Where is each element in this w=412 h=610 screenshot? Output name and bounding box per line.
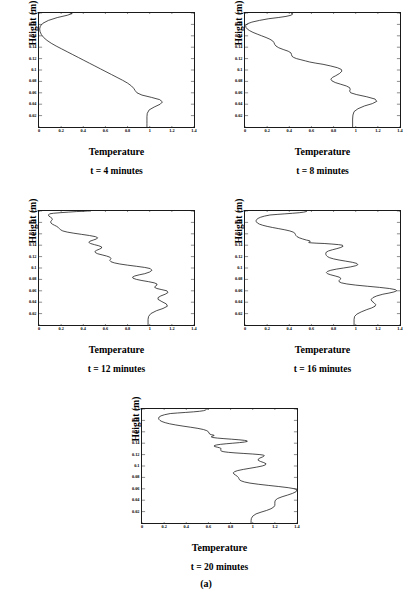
x-tick-label: 0.4 (81, 327, 86, 331)
x-axis-label: Temperature (244, 344, 401, 355)
y-tick-label: 0.04 (235, 300, 243, 304)
y-tick-label: 0.06 (235, 91, 243, 95)
x-tick-label: 0.2 (58, 129, 63, 133)
x-tick-label: 0.2 (264, 129, 269, 133)
plot-area-16min: 00.20.40.60.811.21.40.020.040.060.080.10… (244, 210, 401, 326)
x-tick-label: 1.2 (169, 327, 174, 331)
panel-caption-16min: t = 16 minutes (244, 364, 401, 374)
temperature-curve (159, 409, 297, 523)
x-axis-label: Temperature (141, 542, 298, 553)
x-tick-label: 0.8 (125, 129, 130, 133)
x-tick-label: 0.6 (103, 129, 108, 133)
figure-label: (a) (0, 578, 412, 589)
y-tick-label: 0.02 (29, 113, 37, 117)
x-tick-label: 1.2 (272, 525, 277, 529)
x-tick-label: 1.2 (375, 129, 380, 133)
x-tick-label: 1 (252, 525, 254, 529)
y-tick-label: 0.02 (235, 311, 243, 315)
x-axis-label: Temperature (244, 146, 401, 157)
x-tick-label: 0 (244, 129, 246, 133)
x-tick-label: 0.4 (287, 327, 292, 331)
y-axis-label: Height (m) (28, 0, 38, 81)
x-axis-label: Temperature (38, 146, 195, 157)
panel-caption-8min: t = 8 minutes (244, 166, 401, 176)
y-tick-label: 0.06 (29, 91, 37, 95)
y-axis-label: Height (m) (234, 163, 244, 279)
plot-svg-12min (39, 211, 194, 325)
x-tick-label: 0.8 (125, 327, 130, 331)
x-tick-label: 0.8 (228, 525, 233, 529)
y-tick-label: 0.02 (132, 509, 140, 513)
y-axis-label: Height (m) (131, 361, 141, 477)
x-tick-label: 1.4 (191, 129, 196, 133)
x-axis-label: Temperature (38, 344, 195, 355)
x-tick-label: 1 (149, 327, 151, 331)
plot-area-8min: 00.20.40.60.811.21.40.020.040.060.080.10… (244, 12, 401, 128)
plot-svg-16min (245, 211, 400, 325)
y-tick-label: 0.04 (132, 498, 140, 502)
x-tick-label: 0 (38, 327, 40, 331)
x-tick-label: 1 (149, 129, 151, 133)
x-tick-label: 0.4 (81, 129, 86, 133)
x-tick-label: 1.2 (375, 327, 380, 331)
panel-caption-4min: t = 4 minutes (38, 166, 195, 176)
x-tick-label: 0 (244, 327, 246, 331)
x-tick-label: 0.4 (287, 129, 292, 133)
x-tick-label: 1.4 (191, 327, 196, 331)
x-tick-label: 0.6 (103, 327, 108, 331)
y-axis-label: Height (m) (28, 163, 38, 279)
panel-caption-12min: t = 12 minutes (38, 364, 195, 374)
plot-svg-20min (142, 409, 297, 523)
x-tick-label: 1.4 (397, 327, 402, 331)
plot-area-12min: 00.20.40.60.811.21.40.020.040.060.080.10… (38, 210, 195, 326)
x-tick-label: 0.6 (206, 525, 211, 529)
temperature-curve (256, 211, 397, 325)
y-tick-label: 0.06 (132, 487, 140, 491)
y-tick-label: 0.06 (235, 289, 243, 293)
plot-svg-8min (245, 13, 400, 127)
x-tick-label: 0.2 (161, 525, 166, 529)
plot-svg-4min (39, 13, 194, 127)
plot-area-4min: 00.20.40.60.811.21.40.020.040.060.080.10… (38, 12, 195, 128)
plot-area-20min: 00.20.40.60.811.21.40.020.040.060.080.10… (141, 408, 298, 524)
x-tick-label: 0.6 (309, 327, 314, 331)
x-tick-label: 0 (141, 525, 143, 529)
plot-panel-12min: 00.20.40.60.811.21.40.020.040.060.080.10… (0, 198, 206, 388)
y-tick-label: 0.02 (29, 311, 37, 315)
x-tick-label: 1 (355, 327, 357, 331)
y-tick-label: 0.04 (235, 102, 243, 106)
x-tick-label: 0.8 (331, 129, 336, 133)
plot-panel-4min: 00.20.40.60.811.21.40.020.040.060.080.10… (0, 0, 206, 190)
y-tick-label: 0.06 (29, 289, 37, 293)
y-tick-label: 0.02 (235, 113, 243, 117)
plot-panel-16min: 00.20.40.60.811.21.40.020.040.060.080.10… (206, 198, 412, 388)
x-tick-label: 0.4 (184, 525, 189, 529)
x-tick-label: 0.6 (309, 129, 314, 133)
temperature-curve (246, 13, 377, 127)
x-tick-label: 1.4 (294, 525, 299, 529)
plot-panel-8min: 00.20.40.60.811.21.40.020.040.060.080.10… (206, 0, 412, 190)
y-axis-label: Height (m) (234, 0, 244, 81)
x-tick-label: 1.4 (397, 129, 402, 133)
x-tick-label: 1.2 (169, 129, 174, 133)
x-tick-label: 0 (38, 129, 40, 133)
x-tick-label: 0.2 (58, 327, 63, 331)
y-tick-label: 0.04 (29, 102, 37, 106)
x-tick-label: 1 (355, 129, 357, 133)
x-tick-label: 0.2 (264, 327, 269, 331)
temperature-curve (40, 13, 163, 127)
y-tick-label: 0.04 (29, 300, 37, 304)
x-tick-label: 0.8 (331, 327, 336, 331)
plot-panel-20min: 00.20.40.60.811.21.40.020.040.060.080.10… (103, 396, 309, 586)
panel-caption-20min: t = 20 minutes (141, 562, 298, 572)
temperature-curve (48, 211, 168, 325)
